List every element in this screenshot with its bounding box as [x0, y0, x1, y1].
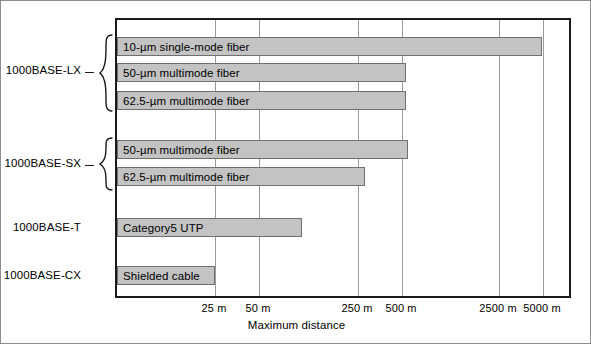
- bar-sx-50um-multimode[interactable]: 50-µm multimode fiber: [117, 140, 408, 159]
- xtick-2500m: 2500 m: [479, 302, 516, 314]
- bar-label: Category5 UTP: [118, 222, 204, 234]
- bar-label: 50-µm multimode fiber: [118, 144, 240, 156]
- bar-t-category5-utp[interactable]: Category5 UTP: [117, 218, 302, 237]
- bar-lx-single-mode[interactable]: 10-µm single-mode fiber: [117, 37, 542, 56]
- bar-lx-62-5um-multimode[interactable]: 62.5-µm multimode fiber: [117, 91, 406, 110]
- bar-sx-62-5um-multimode[interactable]: 62.5-µm multimode fiber: [117, 167, 365, 186]
- xtick-250m: 250 m: [341, 302, 372, 314]
- xtick-50m: 50 m: [246, 302, 271, 314]
- xtick-25m: 25 m: [202, 302, 227, 314]
- category-label-1000base-cx: 1000BASE-CX: [4, 269, 81, 281]
- brace-1000base-lx: [94, 34, 114, 112]
- x-axis-title: Maximum distance: [1, 319, 591, 331]
- gridline: [543, 20, 544, 296]
- category-label-1000base-sx: 1000BASE-SX: [4, 157, 81, 169]
- bar-label: 10-µm single-mode fiber: [118, 41, 250, 53]
- xtick-5000m: 5000 m: [523, 302, 560, 314]
- bar-label: Shielded cable: [118, 270, 200, 282]
- brace-1000base-sx: [94, 137, 114, 191]
- bar-label: 62.5-µm multimode fiber: [118, 171, 250, 183]
- bar-lx-50um-multimode[interactable]: 50-µm multimode fiber: [117, 63, 406, 82]
- category-label-1000base-t: 1000BASE-T: [13, 221, 81, 233]
- gridline: [499, 20, 500, 296]
- category-label-1000base-lx: 1000BASE-LX: [6, 64, 81, 76]
- bar-label: 62.5-µm multimode fiber: [118, 95, 250, 107]
- bar-cx-shielded-cable[interactable]: Shielded cable: [117, 266, 215, 285]
- chart-figure: 10-µm single-mode fiber 50-µm multimode …: [0, 0, 591, 344]
- category-leader-line: [85, 72, 94, 73]
- xtick-500m: 500 m: [385, 302, 416, 314]
- bar-label: 50-µm multimode fiber: [118, 67, 240, 79]
- category-leader-line: [85, 165, 94, 166]
